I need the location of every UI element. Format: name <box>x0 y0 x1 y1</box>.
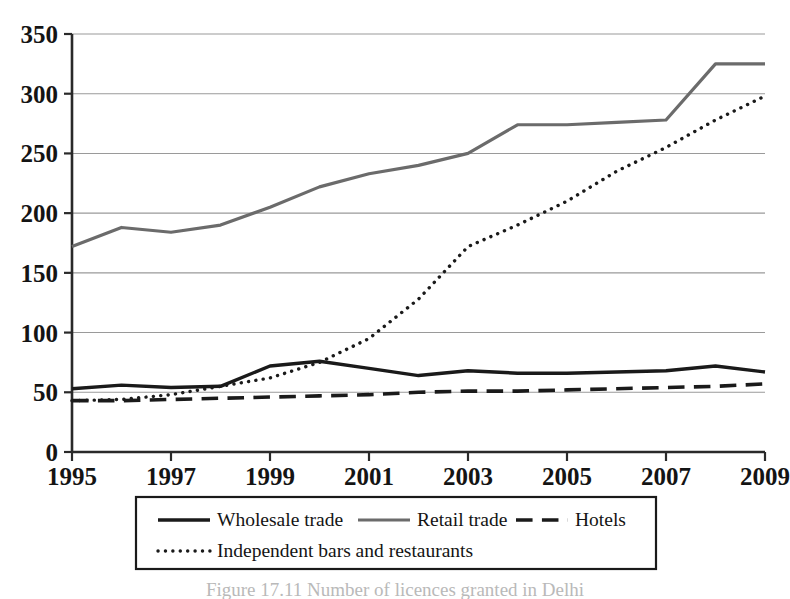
y-tick-label: 200 <box>21 200 59 227</box>
y-tick-label: 350 <box>21 21 59 48</box>
y-tick-label: 300 <box>21 81 59 108</box>
x-tick-label: 2005 <box>542 463 592 490</box>
y-tick-label: 250 <box>21 140 59 167</box>
x-tick-label: 2007 <box>641 463 691 490</box>
x-axis-tick-labels: 19951997199920012003200520072009 <box>47 463 790 490</box>
gridlines <box>72 34 765 392</box>
y-axis <box>64 34 72 452</box>
series-line-retail-trade <box>72 64 765 247</box>
x-tick-label: 1999 <box>245 463 295 490</box>
x-tick-label: 1997 <box>146 463 196 490</box>
figure-container: 050100150200250300350 199519971999200120… <box>0 0 790 599</box>
caption-label: Figure 17.11 Number of licences granted … <box>206 579 584 599</box>
x-tick-label: 1995 <box>47 463 97 490</box>
series-line-wholesale-trade <box>72 361 765 388</box>
x-tick-label: 2003 <box>443 463 493 490</box>
x-axis <box>72 452 765 461</box>
legend-label: Wholesale trade <box>217 509 343 530</box>
data-series-layer <box>72 64 765 401</box>
series-line-independent-bars-and-restaurants <box>72 96 765 401</box>
chart-legend: Wholesale tradeRetail tradeHotelsIndepen… <box>136 497 656 569</box>
figure-caption: Figure 17.11 Number of licences granted … <box>206 579 584 599</box>
x-tick-label: 2001 <box>344 463 394 490</box>
legend-label: Retail trade <box>417 509 507 530</box>
y-axis-tick-labels: 050100150200250300350 <box>21 21 59 466</box>
legend-label: Hotels <box>575 509 626 530</box>
y-tick-label: 0 <box>46 439 59 466</box>
legend-label: Independent bars and restaurants <box>217 540 473 561</box>
line-chart: 050100150200250300350 199519971999200120… <box>0 0 790 599</box>
y-tick-label: 150 <box>21 260 59 287</box>
y-tick-label: 100 <box>21 320 59 347</box>
x-tick-label: 2009 <box>740 463 790 490</box>
y-tick-label: 50 <box>33 379 58 406</box>
